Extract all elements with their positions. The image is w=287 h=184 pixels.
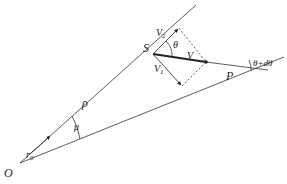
label-theta: θ (173, 39, 178, 50)
label-mu: μ (73, 121, 79, 132)
label-rho: ρ (81, 96, 88, 110)
label-v2: V2 (156, 27, 166, 40)
label-s: S (143, 41, 149, 55)
theta-dtheta-arc (249, 60, 251, 71)
theta-arc (166, 41, 172, 57)
dashed-v1-to-v (182, 62, 206, 86)
label-p: P (225, 69, 234, 83)
velocity-v (153, 54, 206, 62)
ray-lower (20, 57, 284, 163)
label-origin: O (4, 166, 13, 180)
diagram-canvas: O r0 μ ρ S V2 θ V V1 P θ+dθ (0, 0, 287, 184)
r0-arrow (30, 136, 50, 154)
label-v1: V1 (154, 63, 164, 76)
label-theta-dtheta: θ+dθ (253, 58, 273, 68)
